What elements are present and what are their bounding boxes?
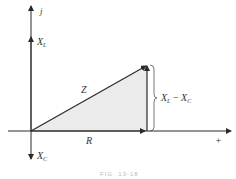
figure-caption: FIG. 13-18 (100, 171, 139, 177)
net-reactance-label: XL − XC (160, 92, 192, 104)
plus-label: + (215, 135, 222, 146)
r-label: R (85, 135, 92, 146)
impedance-diagram: j XL Z R + XC XL − XC FIG. 13-18 (0, 0, 236, 179)
j-axis-label: j (39, 6, 43, 16)
brace-icon (150, 65, 157, 131)
xl-label: XL (36, 36, 47, 48)
z-label: Z (81, 84, 87, 95)
xc-label: XC (36, 150, 48, 162)
